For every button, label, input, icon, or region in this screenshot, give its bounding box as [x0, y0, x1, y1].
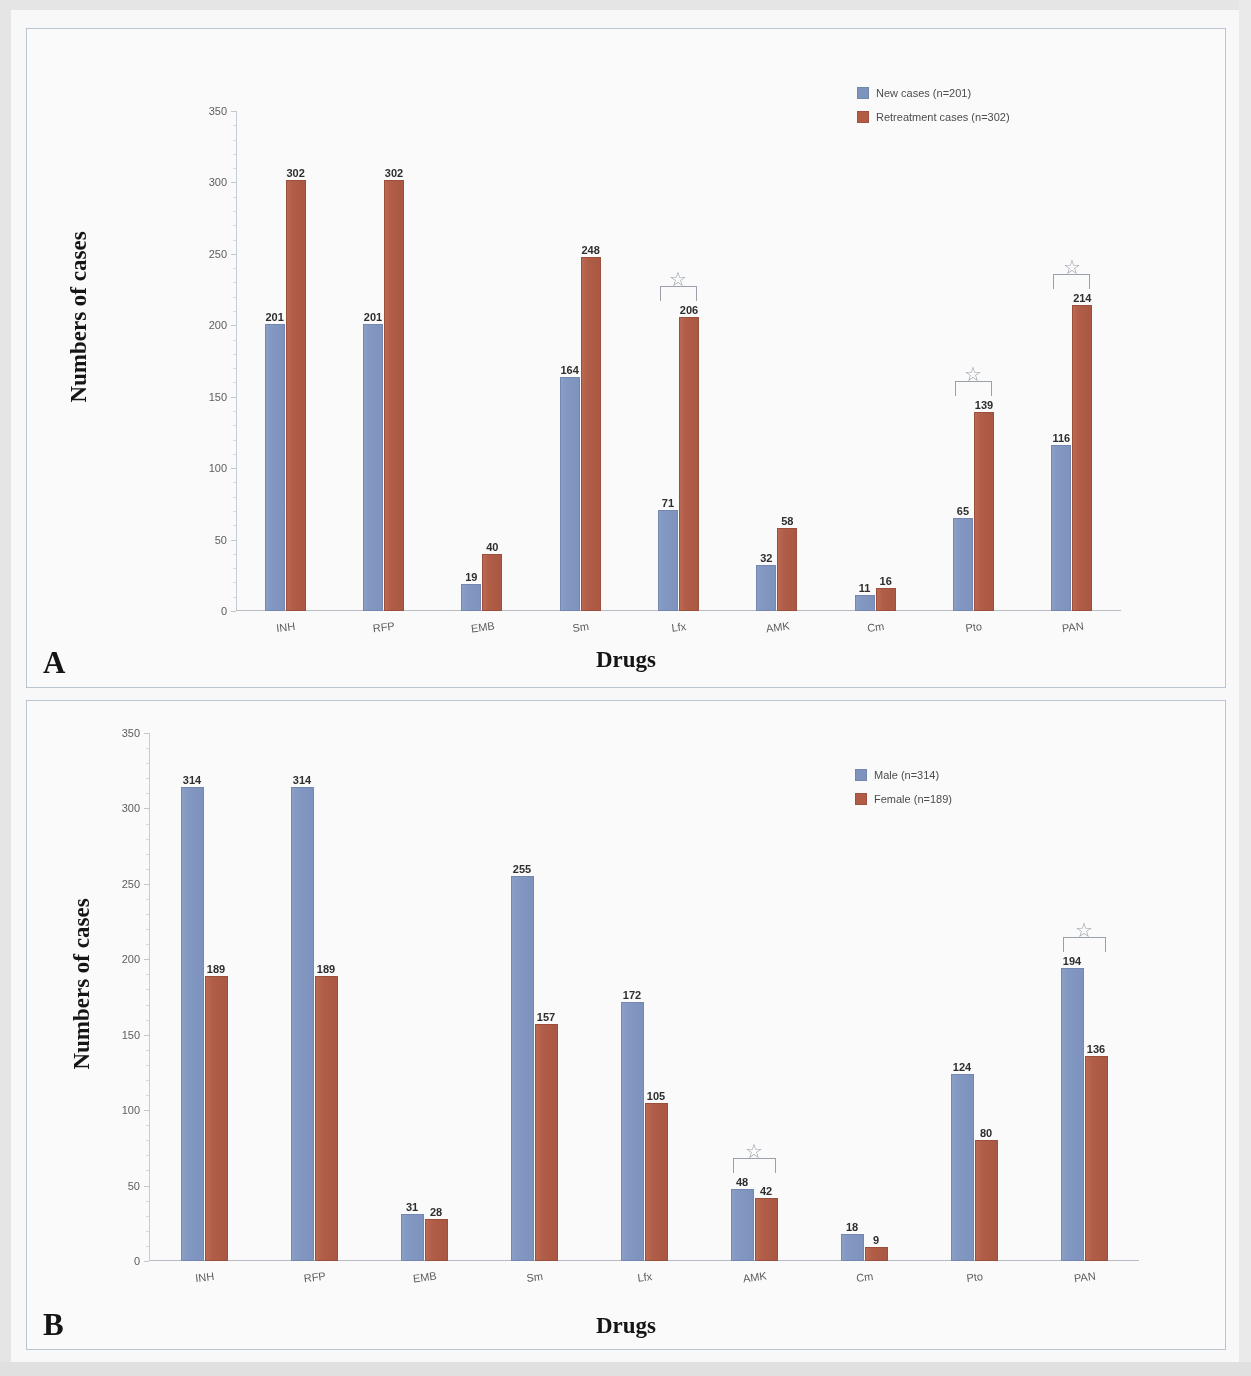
bar-value-label: 255 — [513, 863, 531, 875]
bar[interactable]: 157 — [535, 1024, 558, 1261]
x-tick-label: PAN — [1073, 1270, 1096, 1285]
legend-swatch-icon — [857, 87, 869, 99]
bar[interactable]: 139 — [974, 412, 994, 611]
significance-bracket — [733, 1158, 776, 1173]
bar[interactable]: 65 — [953, 518, 973, 611]
bar[interactable]: 201 — [265, 324, 285, 611]
bar[interactable]: 19 — [461, 584, 481, 611]
star-icon: ☆ — [745, 1141, 763, 1161]
bar-value-label: 124 — [953, 1061, 971, 1073]
bar[interactable]: 42 — [755, 1198, 778, 1261]
star-icon: ☆ — [669, 269, 687, 289]
plot-area-b: 050100150200250300350314189INH314189RFP3… — [149, 733, 1139, 1261]
bar-group: 116214☆PAN — [1023, 111, 1121, 611]
bar-value-label: 302 — [286, 167, 304, 179]
bar[interactable]: 16 — [876, 588, 896, 611]
bar[interactable]: 302 — [384, 180, 404, 611]
bar[interactable]: 189 — [315, 976, 338, 1261]
x-tick-label: AMK — [765, 620, 790, 635]
bar-value-label: 31 — [406, 1201, 418, 1213]
bar[interactable]: 116 — [1051, 445, 1071, 611]
bar-value-label: 11 — [859, 582, 871, 594]
bar-value-label: 248 — [581, 244, 599, 256]
bar-value-label: 194 — [1063, 955, 1081, 967]
bar[interactable]: 194 — [1061, 968, 1084, 1261]
significance-annotation: ☆ — [1053, 257, 1090, 289]
bar[interactable]: 105 — [645, 1103, 668, 1261]
bar-value-label: 157 — [537, 1011, 555, 1023]
star-icon: ☆ — [964, 364, 982, 384]
bar[interactable]: 201 — [363, 324, 383, 611]
bar[interactable]: 314 — [291, 787, 314, 1261]
bar[interactable]: 48 — [731, 1189, 754, 1261]
x-tick-label: INH — [195, 1270, 215, 1284]
bar-group: 189Cm — [809, 733, 919, 1261]
bar[interactable]: 136 — [1085, 1056, 1108, 1261]
y-tick-label: 0 — [221, 605, 227, 617]
plot-area-a: 050100150200250300350201302INH201302RFP1… — [236, 111, 1121, 611]
bar[interactable]: 206 — [679, 317, 699, 611]
bar[interactable]: 302 — [286, 180, 306, 611]
x-tick-label: PAN — [1061, 620, 1084, 635]
bar-value-label: 42 — [760, 1185, 772, 1197]
bar[interactable]: 189 — [205, 976, 228, 1261]
star-icon: ☆ — [1063, 257, 1081, 277]
bar-group: 314189INH — [149, 733, 259, 1261]
bar[interactable]: 11 — [855, 595, 875, 611]
x-tick-label: Pto — [966, 1270, 984, 1284]
bar[interactable]: 255 — [511, 876, 534, 1261]
bar[interactable]: 9 — [865, 1247, 888, 1261]
bar[interactable]: 28 — [425, 1219, 448, 1261]
x-tick-label: RFP — [373, 620, 396, 635]
bar[interactable]: 80 — [975, 1140, 998, 1261]
x-tick-label: Lfx — [637, 1270, 653, 1284]
bar[interactable]: 314 — [181, 787, 204, 1261]
scan-edge-top — [0, 0, 1251, 10]
y-tick-label: 0 — [134, 1255, 140, 1267]
bar-group: 3258AMK — [728, 111, 826, 611]
bar-value-label: 48 — [736, 1176, 748, 1188]
bar[interactable]: 172 — [621, 1002, 644, 1261]
bar-value-label: 214 — [1073, 292, 1091, 304]
bar-value-label: 136 — [1087, 1043, 1105, 1055]
bar-value-label: 105 — [647, 1090, 665, 1102]
x-axis-title-a: Drugs — [27, 647, 1225, 673]
bar[interactable]: 40 — [482, 554, 502, 611]
bar[interactable]: 214 — [1072, 305, 1092, 611]
bar[interactable]: 18 — [841, 1234, 864, 1261]
y-tick-label: 150 — [209, 391, 227, 403]
significance-bracket — [1063, 937, 1106, 952]
bar[interactable]: 248 — [581, 257, 601, 611]
x-tick-label: EMB — [412, 1270, 437, 1285]
x-tick-label: Pto — [965, 620, 983, 634]
bar-value-label: 19 — [465, 571, 477, 583]
bar-value-label: 9 — [873, 1234, 879, 1246]
x-tick-label: RFP — [303, 1270, 326, 1285]
bar[interactable]: 71 — [658, 510, 678, 611]
y-tick-label: 150 — [122, 1029, 140, 1041]
bar-value-label: 201 — [364, 311, 382, 323]
bar-value-label: 164 — [560, 364, 578, 376]
bar[interactable]: 124 — [951, 1074, 974, 1261]
y-tick-label: 250 — [122, 878, 140, 890]
legend-label: New cases (n=201) — [876, 87, 971, 99]
y-tick-label: 50 — [215, 534, 227, 546]
bar[interactable]: 32 — [756, 565, 776, 611]
bar-group: 201302RFP — [334, 111, 432, 611]
bar-group: 255157Sm — [479, 733, 589, 1261]
bar-group: 201302INH — [236, 111, 334, 611]
x-tick-label: INH — [276, 620, 296, 634]
significance-bracket — [955, 381, 992, 396]
bar-value-label: 58 — [781, 515, 793, 527]
legend-item[interactable]: New cases (n=201) — [857, 87, 1010, 99]
bar-group: 1940EMB — [433, 111, 531, 611]
significance-annotation: ☆ — [733, 1141, 776, 1173]
bar[interactable]: 31 — [401, 1214, 424, 1261]
bar[interactable]: 58 — [777, 528, 797, 611]
significance-bracket — [660, 286, 697, 301]
bar[interactable]: 164 — [560, 377, 580, 611]
y-tick-label: 200 — [209, 319, 227, 331]
bar-value-label: 16 — [880, 575, 892, 587]
figure-panel-b: B Numbers of cases Drugs Male (n=314)Fem… — [26, 700, 1226, 1350]
bar-group: 172105Lfx — [589, 733, 699, 1261]
